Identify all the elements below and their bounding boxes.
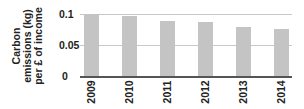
gridline-0-1 <box>80 14 292 15</box>
bar-2010 <box>122 16 137 76</box>
y-tick-0-05: 0.05 <box>59 39 79 51</box>
x-tick-2013: 2013 <box>237 79 249 105</box>
bar-2009 <box>84 14 99 76</box>
y-axis-label: Carbon emissions (kg) per £ of income <box>0 0 54 92</box>
y-tick-0: 0 <box>62 70 68 82</box>
bar-2014 <box>274 29 289 76</box>
gridline-0-05 <box>80 45 292 46</box>
bar-2013 <box>236 27 251 76</box>
x-tick-2014: 2014 <box>275 79 287 105</box>
x-tick-2010: 2010 <box>123 79 135 105</box>
bar-2012 <box>198 22 213 76</box>
x-tick-2011: 2011 <box>161 79 173 105</box>
x-axis-line <box>80 76 292 78</box>
x-tick-2012: 2012 <box>199 79 211 105</box>
y-tick-0-1: 0.1 <box>59 8 74 20</box>
x-tick-2009: 2009 <box>85 79 97 105</box>
y-axis-label-line-3: per £ of income <box>33 7 44 85</box>
bar-2011 <box>160 21 175 76</box>
